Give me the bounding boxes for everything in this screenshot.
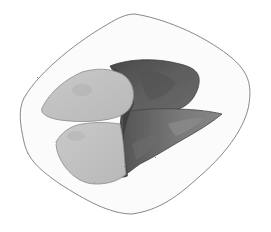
illustration [0, 0, 271, 232]
watercolor-drawing [0, 0, 271, 232]
